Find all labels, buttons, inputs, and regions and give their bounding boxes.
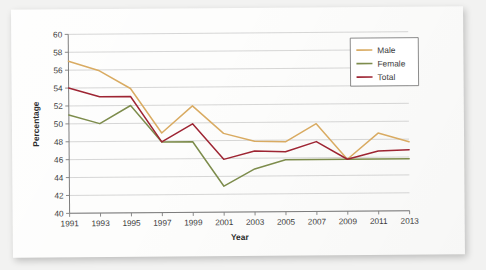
- y-tick-label: 42: [54, 192, 64, 201]
- y-tick-label: 50: [54, 120, 64, 129]
- series-line-female: [69, 103, 410, 187]
- y-tick-label: 44: [54, 174, 64, 183]
- x-tick-label: 2013: [401, 217, 420, 226]
- line-chart: 4042444648505254565860 19911993199519971…: [0, 0, 486, 270]
- gridline: [68, 32, 408, 35]
- y-tick-label: 48: [54, 138, 64, 147]
- x-tick-label: 1991: [61, 219, 80, 228]
- x-tick-label: 1997: [153, 219, 172, 228]
- gridline: [69, 103, 409, 106]
- x-tick-label: 2011: [370, 217, 388, 226]
- x-tick-label: 2009: [339, 217, 358, 226]
- y-tick-label: 56: [53, 66, 63, 75]
- y-tick-label: 60: [53, 30, 63, 39]
- y-tick-label: 58: [53, 48, 63, 57]
- gridline: [69, 121, 409, 124]
- x-axis-tick-labels: 1991199319951997199920012003200520072009…: [61, 217, 420, 229]
- y-tick-label: 40: [54, 209, 64, 218]
- y-tick-label: 54: [53, 84, 63, 93]
- chart-svg: 4042444648505254565860 19911993199519971…: [0, 0, 486, 270]
- x-tick-label: 1993: [91, 219, 110, 228]
- x-tick-label: 1999: [184, 218, 203, 227]
- gridline: [69, 139, 409, 142]
- gridline: [69, 193, 409, 196]
- legend-label-female: Female: [377, 58, 405, 68]
- x-tick-label: 1995: [122, 219, 141, 228]
- legend-label-male: Male: [377, 45, 396, 55]
- y-axis-title: Percentage: [31, 101, 41, 147]
- y-tick-label: 46: [54, 156, 64, 165]
- legend: MaleFemaleTotal: [350, 38, 418, 87]
- x-tick-label: 2005: [277, 218, 296, 227]
- x-tick-label: 2003: [246, 218, 265, 227]
- x-tick-label: 2001: [215, 218, 234, 227]
- x-axis-line: [70, 211, 410, 214]
- legend-label-total: Total: [378, 72, 396, 82]
- y-axis-tick-labels: 4042444648505254565860: [53, 30, 64, 218]
- x-tick-label: 2007: [308, 217, 327, 226]
- x-axis-title: Year: [231, 232, 250, 242]
- y-tick-label: 52: [54, 102, 64, 111]
